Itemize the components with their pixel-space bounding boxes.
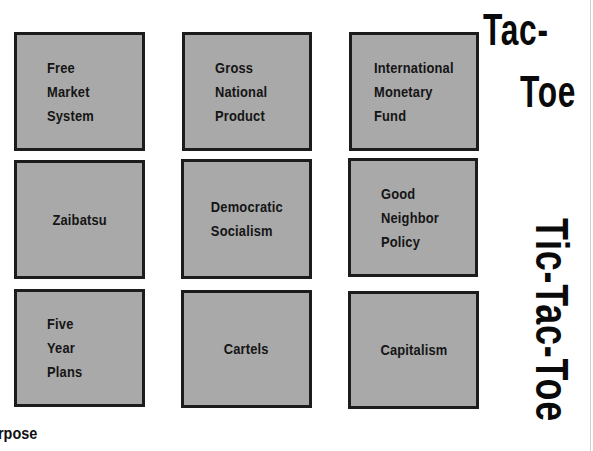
cell-label: Capitalism xyxy=(380,338,447,362)
grid-cell-free-market-system[interactable]: Free Market System xyxy=(14,32,145,151)
grid-cell-cartels[interactable]: Cartels xyxy=(181,290,312,408)
page-edge-divider xyxy=(590,0,591,451)
cell-label: Five Year Plans xyxy=(47,312,82,384)
corner-title-line-1: Tac- xyxy=(483,8,549,52)
grid-cell-international-monetary-fund[interactable]: International Monetary Fund xyxy=(349,32,479,151)
grid-cell-zaibatsu[interactable]: Zaibatsu xyxy=(14,160,145,279)
cell-label: International Monetary Fund xyxy=(374,56,454,128)
grid-cell-good-neighbor-policy[interactable]: Good Neighbor Policy xyxy=(348,158,478,277)
grid-cell-gross-national-product[interactable]: Gross National Product xyxy=(182,32,312,151)
grid-cell-capitalism[interactable]: Capitalism xyxy=(348,291,479,409)
corner-title-line-2: Toe xyxy=(520,70,576,114)
cell-label: Good Neighbor Policy xyxy=(381,182,439,254)
vertical-title: Tic-Tac-Toe xyxy=(529,218,575,422)
grid-cell-five-year-plans[interactable]: Five Year Plans xyxy=(14,289,145,407)
cell-label: Cartels xyxy=(224,337,269,361)
cell-label: Democratic Socialism xyxy=(210,195,282,243)
cell-label: Gross National Product xyxy=(215,56,267,128)
cell-label: Zaibatsu xyxy=(52,208,106,232)
footer-heading-partial: rpose xyxy=(0,424,37,444)
grid-cell-democratic-socialism[interactable]: Democratic Socialism xyxy=(181,159,312,279)
cell-label: Free Market System xyxy=(47,56,94,128)
